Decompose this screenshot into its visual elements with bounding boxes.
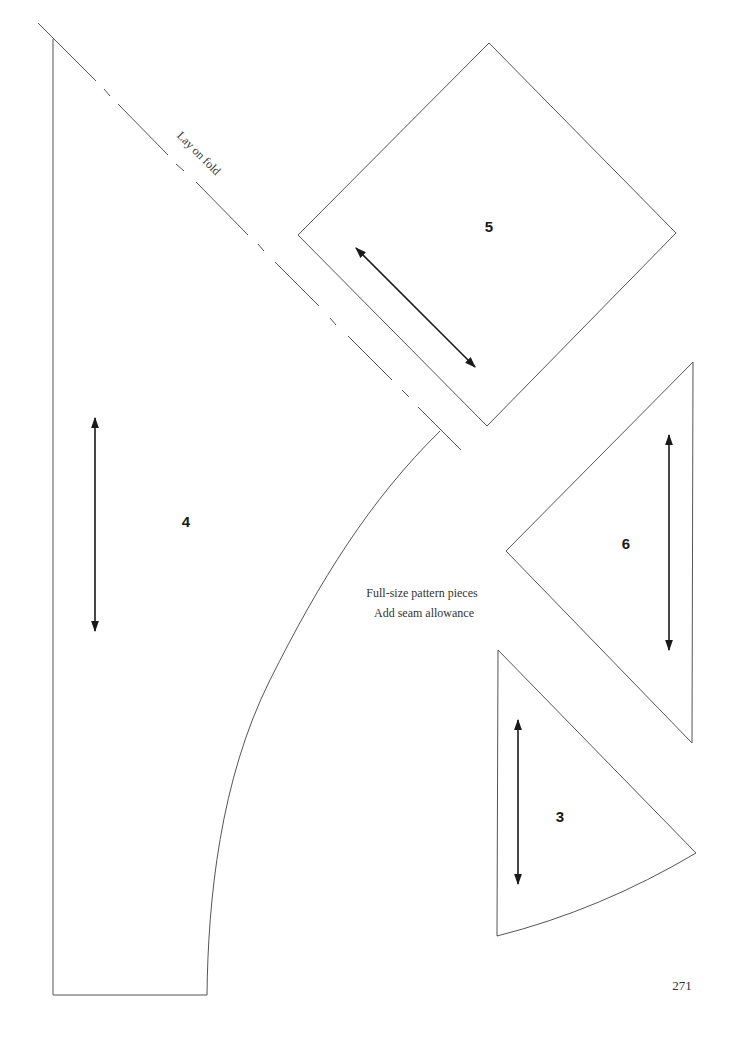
pattern-sheet: Lay on fold 4 5 6 3 Full-size pattern pi… <box>0 0 747 1050</box>
piece-5-grainline-arrow <box>356 248 475 367</box>
piece-4-label: 4 <box>182 513 191 530</box>
pattern-piece-3: 3 <box>497 650 696 936</box>
pattern-piece-5: 5 <box>298 43 676 426</box>
caption-line-2: Add seam allowance <box>374 606 474 620</box>
piece-5-label: 5 <box>485 218 493 235</box>
fold-label: Lay on fold <box>174 128 223 177</box>
piece-3-label: 3 <box>556 808 564 825</box>
caption-line-1: Full-size pattern pieces <box>366 586 478 600</box>
fold-line <box>38 23 461 450</box>
page-number: 271 <box>672 978 692 993</box>
pattern-piece-6: 6 <box>506 362 693 743</box>
piece-4-outline <box>53 39 440 995</box>
piece-3-outline <box>497 650 696 936</box>
piece-6-outline <box>506 362 693 743</box>
pattern-piece-4: 4 <box>53 39 440 995</box>
piece-6-label: 6 <box>622 535 630 552</box>
